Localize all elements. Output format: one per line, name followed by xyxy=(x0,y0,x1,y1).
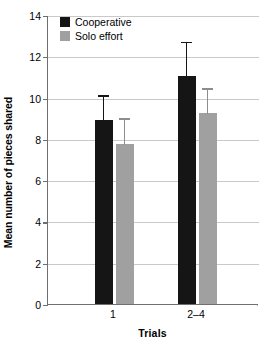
y-tick-mark xyxy=(43,99,48,100)
error-bar-cap xyxy=(98,95,109,96)
legend-label-cooperative: Cooperative xyxy=(75,17,132,28)
x-axis-title: Trials xyxy=(47,327,258,339)
legend-label-solo-effort: Solo effort xyxy=(75,31,123,42)
y-tick-mark xyxy=(43,57,48,58)
plot-area: 02468101214 xyxy=(47,16,258,305)
y-tick-label: 10 xyxy=(29,93,41,104)
y-tick-label: 14 xyxy=(29,11,41,22)
gridline xyxy=(48,57,259,58)
error-bar-cap xyxy=(181,42,192,43)
legend-item-cooperative: Cooperative xyxy=(60,15,132,29)
y-tick-mark xyxy=(43,264,48,265)
bar-solo-effort xyxy=(116,144,134,304)
y-tick-label: 12 xyxy=(29,52,41,63)
error-bar-cap xyxy=(202,88,213,89)
y-tick-mark xyxy=(43,16,48,17)
y-tick-label: 2 xyxy=(35,258,41,269)
gridline xyxy=(48,140,259,141)
y-tick-label: 4 xyxy=(35,217,41,228)
chart-legend: Cooperative Solo effort xyxy=(60,15,132,43)
gridline xyxy=(48,222,259,223)
legend-item-solo-effort: Solo effort xyxy=(60,29,132,43)
x-tick-label: 2–4 xyxy=(187,308,205,320)
x-tick-label: 1 xyxy=(110,308,116,320)
bar-cooperative xyxy=(178,76,196,304)
error-bar-stem xyxy=(124,118,125,145)
error-bar-stem xyxy=(207,88,208,114)
error-bar-stem xyxy=(103,95,104,121)
gridline xyxy=(48,99,259,100)
bar-solo-effort xyxy=(199,113,217,304)
y-tick-mark xyxy=(43,181,48,182)
y-tick-label: 8 xyxy=(35,135,41,146)
gridline xyxy=(48,264,259,265)
y-tick-mark xyxy=(43,222,48,223)
y-tick-mark xyxy=(43,140,48,141)
bar-chart: Mean number of pieces shared 02468101214… xyxy=(0,0,271,345)
y-axis-title: Mean number of pieces shared xyxy=(0,0,16,345)
error-bar-cap xyxy=(119,118,130,119)
y-tick-label: 6 xyxy=(35,176,41,187)
legend-swatch-solo-effort-icon xyxy=(60,31,70,41)
error-bar-stem xyxy=(186,42,187,77)
legend-swatch-cooperative-icon xyxy=(60,17,70,27)
bar-cooperative xyxy=(95,120,113,304)
y-tick-label: 0 xyxy=(35,300,41,311)
gridline xyxy=(48,181,259,182)
y-tick-mark xyxy=(43,305,48,306)
